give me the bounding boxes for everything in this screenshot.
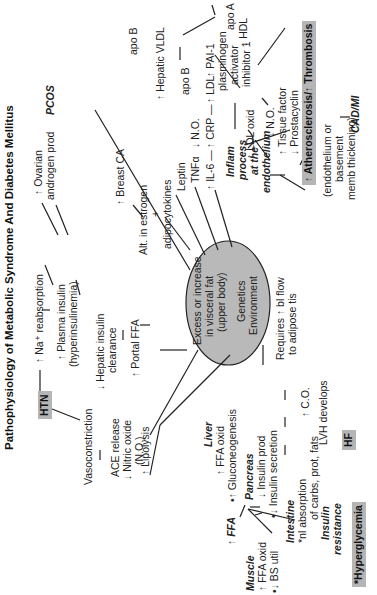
bl-flow-line2: to adipose tis <box>287 293 299 355</box>
prostacyclin: ↓ Prostacyclin <box>289 90 301 155</box>
htn-box: HTN <box>38 391 52 419</box>
inflam-line4: endothelium <box>261 131 273 193</box>
hepatic-insulin-line1: ↓ Hepatic insulin <box>95 314 107 390</box>
diagram-title: Pathophysiology of Metabolic Syndrome An… <box>4 105 16 450</box>
cad-mi: CAD/MI <box>350 96 362 133</box>
hf-box: HF <box>342 430 356 450</box>
hyperglycemia-box: *Hyperglycemia <box>352 502 366 587</box>
center-line4: Genetics <box>236 281 248 322</box>
tnf-alpha: TNFα <box>190 157 202 183</box>
diagram-canvas: Pathophysiology of Metabolic Syndrome An… <box>0 0 377 595</box>
liver-gluconeogenesis: •↑ Gluconeogenesis <box>227 409 239 502</box>
center-line1: Excess or increase <box>192 256 204 345</box>
breast-ca: ↑ Breast CA <box>115 149 127 205</box>
center-line5: Environment <box>248 276 260 335</box>
insulin-resistance-line2: resistance <box>332 503 344 555</box>
pancreas-insulin-prod: ↓ Insulin prod <box>256 436 268 498</box>
estrogen-line1: Alt. in estrogen <box>138 185 150 255</box>
apo-b-vldl: apo B <box>128 28 140 55</box>
ovarian-line1: ↑ Ovarian <box>33 150 45 195</box>
center-line2: in visceral fat <box>204 276 216 337</box>
hepatic-vldl: ↑ Hepatic VLDL <box>155 27 167 100</box>
na-reabsorption: ↑ Na⁺ reabsorption <box>34 274 46 363</box>
pai-line1: ↑ PAI-1 <box>205 43 217 77</box>
pai-line4: inhibitor 1 <box>241 41 253 87</box>
apo-a: apo A <box>225 3 237 30</box>
muscle-ffa-oxid: ↑ FFA oxid <box>257 542 269 591</box>
il-6: ↑ IL-6 — <box>205 150 217 190</box>
hepatic-insulin-line2: clearance <box>107 327 119 373</box>
pai-line2: plasminogen <box>217 31 229 91</box>
ace-release: ACE release <box>110 418 122 477</box>
ovarian-line2: androgen prod <box>45 132 57 200</box>
pancreas-label: Pancreas <box>244 453 256 500</box>
estrogen-plus: + <box>150 211 162 217</box>
endothelial-no: ↓ N.O. <box>265 107 277 137</box>
nitric-oxide: ↓ Nitric oxide <box>122 420 134 480</box>
apo-b-ldl: apo B <box>180 68 192 95</box>
muscle-label: Muscle <box>245 555 257 591</box>
plasma-insulin-line2: (hyperinsulinemia) <box>68 281 80 367</box>
inflam-line1: Inflam <box>225 146 237 177</box>
portal-ffa: ↑ Portal FFA <box>130 319 142 377</box>
athero-note-line1: (endothelium or <box>322 124 334 197</box>
pancreas-insulin-secretion: •↓ Insulin secretion <box>268 430 280 518</box>
ldl-oxid: ↑ LDL oxid <box>245 110 257 159</box>
intestine-line1: *nl absorption <box>297 479 309 543</box>
pai-line3: activator <box>229 45 241 85</box>
plasma-insulin-line1: ↑ Plasma insulin <box>56 284 68 360</box>
adipocytokines: adipocytokines <box>162 180 174 249</box>
pcos-label: PCOS <box>45 85 57 115</box>
lvh-develops: LVH develops <box>318 380 330 445</box>
no-decrease: ↓ N.O. <box>190 118 202 148</box>
leptin: Leptin <box>176 162 188 191</box>
atherosclerosis-box: ↑ Atherosclerosis/↑ Thrombosis <box>302 21 316 185</box>
bl-flow-line1: Requires ↑ bl flow <box>275 277 287 360</box>
insulin-resistance-line1: Insulin <box>320 506 332 540</box>
center-line3: (upper body) <box>216 272 228 332</box>
lipolysis: ↑ Lipolysis <box>140 427 152 475</box>
ldl: ↑ LDL <box>205 76 217 103</box>
liver-ffa-oxid: ↑ FFA oxid <box>215 426 227 475</box>
vasoconstriction: Vasoconstriction <box>83 409 95 485</box>
muscle-bs-util: •↓ BS util <box>269 551 281 593</box>
cardiac-output: ↑ C.O. <box>300 387 312 417</box>
athero-note-line2: basement <box>334 136 346 182</box>
tissue-factor: ↑ Tissue factor <box>277 87 289 155</box>
liver-label: Liver <box>203 422 215 447</box>
intestine-label: Intestine <box>285 500 297 543</box>
ffa: ↑ FFA <box>226 517 238 545</box>
crp: ↑ CRP — <box>205 104 217 148</box>
